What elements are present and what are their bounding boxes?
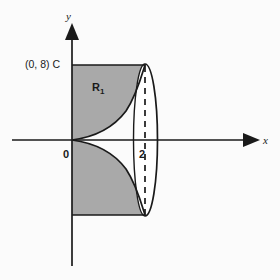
point-c-label: (0, 8) C [25, 58, 60, 70]
figure-canvas: y x 0 2 (0, 8) C R1 [0, 0, 280, 280]
y-axis-arrowhead [65, 23, 79, 40]
region-label-subscript: 1 [100, 87, 105, 96]
x-tick-label-two: 2 [139, 148, 145, 160]
origin-label: 0 [63, 148, 69, 160]
x-axis-label: x [262, 134, 268, 146]
x-axis-arrowhead [243, 133, 260, 147]
calculus-figure: y x 0 2 (0, 8) C R1 [0, 0, 280, 280]
region-label-letter: R [92, 81, 100, 93]
y-axis-label: y [65, 10, 71, 22]
